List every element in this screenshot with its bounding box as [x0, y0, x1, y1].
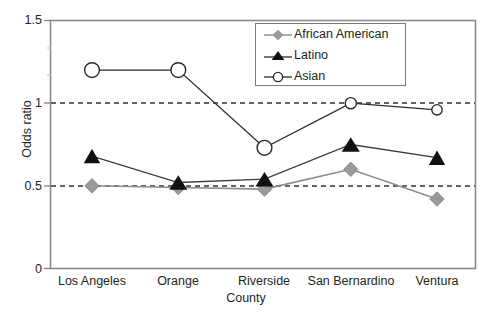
chart-figure: 1.5 1 0.5 0 Odds ratio [0, 0, 486, 315]
data-point-latino-ventura [429, 150, 445, 165]
data-point-latino-los-angeles [84, 149, 100, 164]
diamond-marker-icon [262, 27, 294, 43]
data-point-asian-riverside [257, 140, 272, 155]
legend-label-african-american: African American [294, 28, 388, 41]
data-point-african-american-ventura [430, 192, 444, 206]
data-point-asian-san-bernardino [345, 98, 356, 109]
legend-item-asian: Asian [256, 66, 405, 87]
legend-item-african-american: African American [256, 24, 405, 45]
data-point-asian-orange [171, 63, 186, 78]
data-point-african-american-los-angeles [85, 179, 99, 193]
legend-item-latino: Latino [256, 45, 405, 66]
data-point-asian-los-angeles [85, 63, 100, 78]
data-point-asian-ventura [432, 105, 442, 115]
legend-label-asian: Asian [294, 70, 325, 83]
circle-open-marker-icon [262, 69, 294, 85]
x-tick-label-los-angeles: Los Angeles [42, 274, 142, 288]
x-axis-title: County [186, 291, 306, 305]
x-tick-label-orange: Orange [133, 274, 223, 288]
data-point-african-american-san-bernardino [344, 162, 358, 176]
legend-label-latino: Latino [294, 49, 328, 62]
plot-area [0, 0, 486, 315]
x-tick-label-ventura: Ventura [395, 274, 479, 288]
data-point-latino-san-bernardino [342, 137, 360, 152]
chart-legend: African American Latino Asian [255, 23, 406, 86]
triangle-marker-icon [262, 48, 294, 64]
